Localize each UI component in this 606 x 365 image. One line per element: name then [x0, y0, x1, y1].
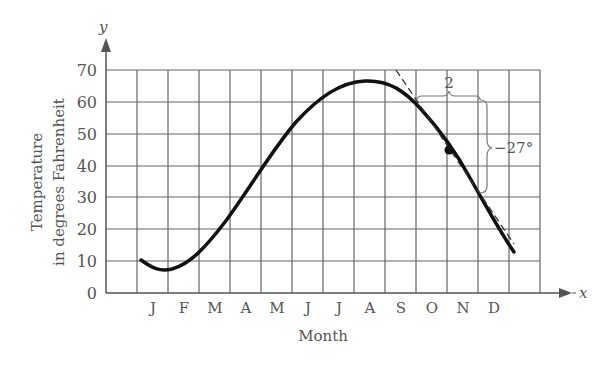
rise-brace	[480, 100, 492, 193]
temperature-chart: y x 0 10 20 30 40 50 60 70 J F M A M J J…	[0, 0, 606, 365]
x-tick: J	[334, 299, 342, 317]
x-tick-labels: J F M A M J J A S O N D	[148, 299, 500, 317]
y-axis-symbol: y	[98, 18, 108, 36]
run-brace	[417, 91, 480, 100]
y-tick-labels: 0 10 20 30 40 50 60 70	[77, 61, 97, 303]
y-tick: 50	[77, 125, 97, 144]
y-tick: 20	[77, 220, 97, 239]
rise-label: −27°	[494, 139, 533, 157]
grid	[106, 70, 540, 293]
x-axis-arrow-icon	[559, 288, 572, 298]
x-tick: A	[240, 299, 252, 317]
y-tick: 0	[87, 284, 97, 303]
x-tick: D	[488, 299, 500, 317]
x-tick: M	[207, 299, 222, 317]
x-tick: N	[456, 299, 469, 317]
svg-text:Temperature: Temperature	[28, 133, 46, 231]
temperature-curve	[141, 81, 514, 270]
x-tick: O	[426, 299, 438, 317]
x-tick: J	[303, 299, 311, 317]
y-tick: 70	[77, 61, 97, 80]
y-tick: 30	[77, 188, 97, 207]
x-axis-label: Month	[298, 327, 348, 345]
axes	[106, 48, 565, 293]
x-axis-symbol: x	[579, 284, 588, 302]
y-axis-label: Temperature in degrees Fahrenheit	[28, 98, 68, 266]
x-tick: A	[364, 299, 376, 317]
y-axis-arrow-icon	[101, 38, 111, 52]
tangent-point	[445, 146, 454, 155]
y-tick: 40	[77, 157, 97, 176]
x-tick: F	[179, 299, 189, 317]
x-tick: S	[396, 299, 406, 317]
y-tick: 10	[77, 252, 97, 271]
x-tick: M	[269, 299, 284, 317]
y-tick: 60	[77, 93, 97, 112]
svg-text:in degrees Fahrenheit: in degrees Fahrenheit	[50, 98, 68, 266]
run-label: 2	[444, 74, 454, 92]
x-tick: J	[148, 299, 156, 317]
